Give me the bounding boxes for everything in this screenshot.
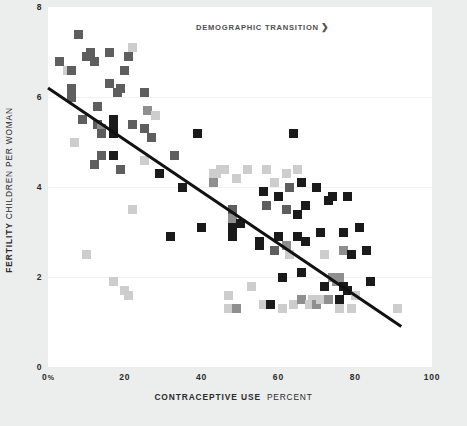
percent-sign: % — [48, 374, 54, 381]
x-tick-label: 60 — [273, 372, 284, 382]
y-axis-title: FERTILITY CHILDREN PER WOMAN — [2, 0, 16, 380]
x-tick-label: 20 — [119, 372, 130, 382]
y-tick-label: 2 — [12, 272, 42, 282]
y-tick-label: 4 — [12, 182, 42, 192]
y-tick-label: 6 — [12, 92, 42, 102]
trendline — [48, 88, 401, 327]
x-axis-title-light: PERCENT — [267, 392, 313, 402]
x-tick-label: 40 — [196, 372, 207, 382]
x-axis-ticks: 0%20406080100 — [0, 372, 467, 386]
fertility-contraceptive-scatter-chart: DEMOGRAPHIC TRANSITION❯ 86420 0%20406080… — [0, 0, 467, 426]
plot-area — [48, 7, 432, 367]
demographic-transition-annotation: DEMOGRAPHIC TRANSITION❯ — [196, 22, 330, 32]
x-tick-label: 100 — [424, 372, 441, 382]
y-tick-label: 8 — [12, 2, 42, 12]
x-tick-label: 0% — [42, 372, 54, 382]
x-axis-title-strong: CONTRACEPTIVE USE — [154, 392, 261, 402]
y-axis-title-light: CHILDREN PER WOMAN — [4, 107, 14, 219]
x-axis-title: CONTRACEPTIVE USE PERCENT — [0, 392, 467, 402]
trendline-layer — [48, 7, 432, 367]
annotation-text: DEMOGRAPHIC TRANSITION — [196, 23, 319, 32]
y-tick-label: 0 — [12, 362, 42, 372]
arrow-right-icon: ❯ — [321, 22, 330, 32]
x-tick-label: 80 — [350, 372, 361, 382]
y-axis-title-strong: FERTILITY — [4, 222, 14, 272]
